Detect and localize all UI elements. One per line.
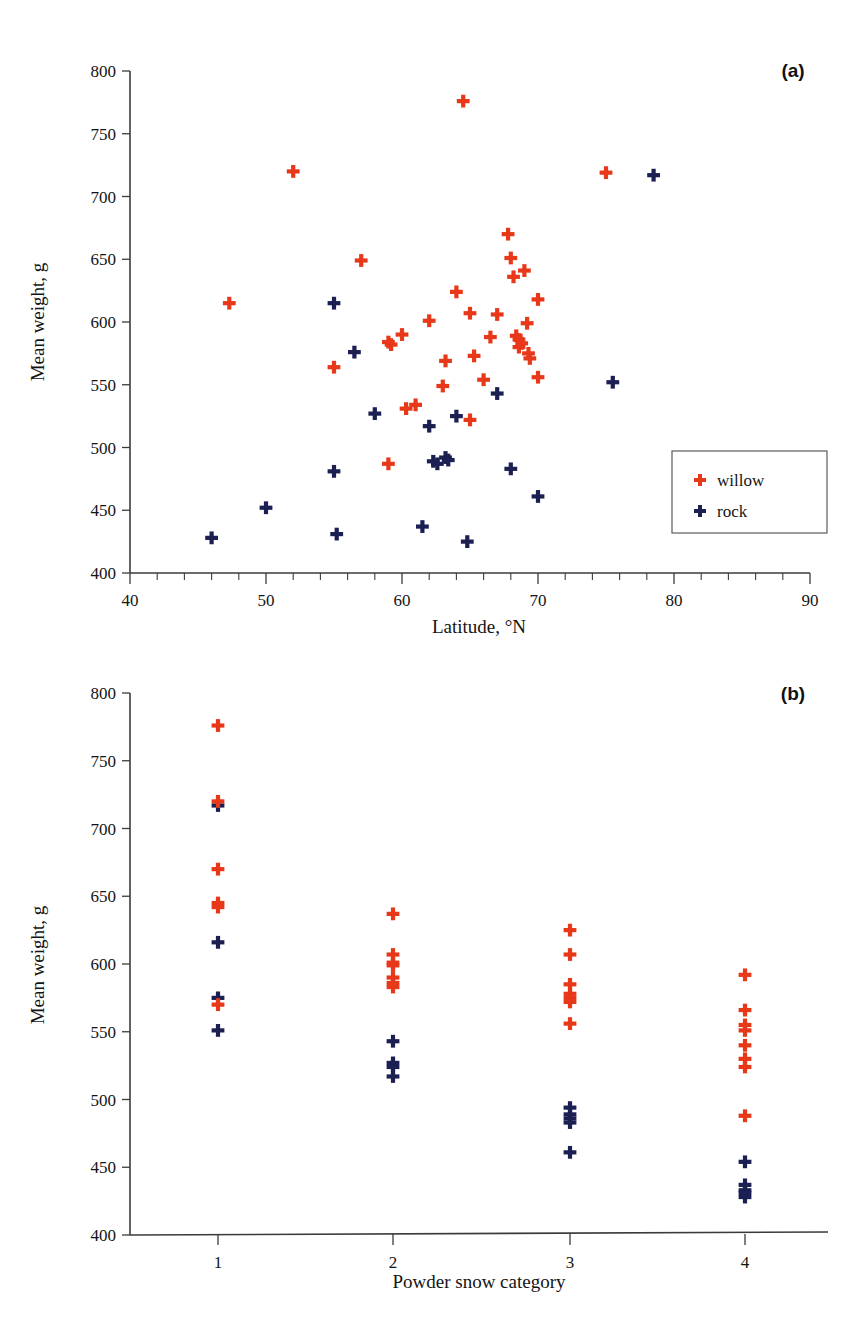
panel-a-ytick-label: 750 [91, 125, 117, 144]
panel-b-ytick-label: 800 [91, 684, 117, 703]
panel-b-ytick-label: 500 [91, 1091, 117, 1110]
panel-a-ytick-label: 550 [91, 376, 117, 395]
panel-a-ytick-label: 450 [91, 501, 117, 520]
panel-b-ytick-label: 750 [91, 752, 117, 771]
panel-b-ytick-label: 450 [91, 1158, 117, 1177]
panel-a-legend: willow rock [672, 451, 827, 533]
panel-b-ytick-label: 550 [91, 1023, 117, 1042]
panel-a-xaxis-title: Latitude, °N [432, 616, 526, 637]
panel-a-xtick-label: 90 [802, 591, 819, 610]
panel-b-ytick-label: 600 [91, 955, 117, 974]
figure-background [0, 0, 858, 1330]
panel-b-xtick-label: 4 [741, 1253, 750, 1272]
panel-b-xtick-label: 1 [214, 1253, 223, 1272]
panel-b-xtick-label: 2 [389, 1253, 398, 1272]
panel-b-ytick-label: 400 [91, 1226, 117, 1245]
panel-b-xtick-label: 3 [566, 1253, 575, 1272]
panel-a-ytick-label: 650 [91, 250, 117, 269]
panel-b-ytick-label: 650 [91, 887, 117, 906]
panel-a-label: (a) [781, 60, 804, 81]
panel-a-xtick-label: 70 [530, 591, 547, 610]
panel-a-ytick-label: 500 [91, 439, 117, 458]
panel-a-xtick-label: 50 [258, 591, 275, 610]
scientific-figure: 400450500550600650700750800405060708090 … [0, 0, 858, 1330]
panel-a-ytick-label: 400 [91, 564, 117, 583]
panel-a-ytick-label: 700 [91, 188, 117, 207]
panel-a-ytick-label: 600 [91, 313, 117, 332]
panel-a-xtick-label: 60 [394, 591, 411, 610]
legend-label-rock: rock [717, 502, 748, 521]
figure-canvas: 400450500550600650700750800405060708090 … [0, 0, 858, 1330]
panel-a-ytick-label: 800 [91, 62, 117, 81]
panel-b-label: (b) [781, 683, 805, 704]
panel-b-yaxis-title: Mean weight, g [27, 905, 48, 1024]
legend-label-willow: willow [717, 471, 765, 490]
panel-b-xaxis-title: Powder snow category [392, 1271, 566, 1292]
panel-b-ytick-label: 700 [91, 820, 117, 839]
legend-border [672, 451, 827, 533]
panel-a-xtick-label: 40 [122, 591, 139, 610]
panel-a-xtick-label: 80 [666, 591, 683, 610]
panel-a-yaxis-title: Mean weight, g [27, 262, 48, 381]
